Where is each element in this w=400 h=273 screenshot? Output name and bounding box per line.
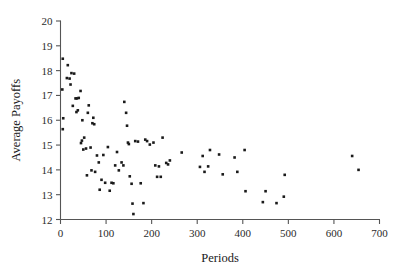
data-point: (266, 14.7) — [180, 151, 183, 154]
y-tick-label: 14 — [42, 164, 54, 176]
data-point: (216, 14.14) — [158, 165, 161, 168]
data-point: (116, 13.46) — [112, 182, 115, 185]
y-tick-label: 13 — [42, 189, 54, 201]
data-point: (60, 16.3) — [87, 112, 90, 115]
data-point: (316, 13.92) — [203, 171, 206, 174]
data-point: (84, 14.3) — [97, 161, 100, 164]
data-point: (450, 13.14) — [264, 190, 267, 193]
x-tick-label: 500 — [280, 227, 297, 239]
data-point: (74, 15.84) — [93, 123, 96, 126]
data-point: (150, 15.04) — [128, 143, 131, 146]
data-point: (94, 14.6) — [102, 154, 105, 157]
y-tick-label: 15 — [42, 139, 54, 151]
data-point: (52, 15.3) — [83, 136, 86, 139]
y-tick-label: 18 — [42, 65, 54, 77]
data-point: (98, 13.48) — [104, 181, 107, 184]
data-point: (50, 14.82) — [82, 148, 85, 151]
y-tick-label: 16 — [42, 114, 54, 126]
y-tick-label: 20 — [42, 15, 54, 27]
data-point: (474, 12.66) — [275, 202, 278, 205]
data-point: (356, 13.82) — [221, 173, 224, 176]
data-point: (40, 16.9) — [77, 97, 80, 100]
data-point: (406, 13.14) — [244, 190, 247, 193]
data-point: (86, 13.2) — [98, 188, 101, 191]
data-point: (58, 13.78) — [86, 174, 89, 177]
data-point: (328, 14.8) — [209, 149, 212, 152]
data-point: (240, 14.38) — [169, 159, 172, 162]
data-point: (164, 15.16) — [134, 140, 137, 143]
data-point: (5, 18.48) — [61, 57, 64, 60]
data-point: (56, 14.86) — [85, 147, 88, 150]
data-point: (158, 12.64) — [131, 202, 134, 205]
data-point: (196, 15.02) — [149, 143, 152, 146]
data-point: (224, 15.3) — [161, 136, 164, 139]
data-point: (152, 13.74) — [128, 175, 131, 178]
data-point: (146, 15.78) — [126, 124, 129, 127]
data-point: (140, 16.74) — [123, 101, 126, 104]
data-point: (35, 16.33) — [75, 111, 78, 114]
y-tick-label: 17 — [42, 89, 54, 101]
x-tick-label: 400 — [235, 227, 252, 239]
data-point: (204, 15.1) — [152, 141, 155, 144]
data-point: (27, 16.58) — [72, 105, 75, 108]
data-point: (72, 16.1) — [92, 116, 95, 119]
data-point: (160, 12.22) — [132, 213, 135, 216]
data-point: (404, 14.8) — [243, 149, 246, 152]
x-tick-label: 700 — [371, 227, 388, 239]
x-tick-label: 0 — [58, 227, 64, 239]
data-point: (306, 14.12) — [199, 166, 202, 169]
data-point: (104, 14.92) — [107, 146, 110, 149]
data-point: (208, 14.18) — [154, 164, 157, 167]
y-tick-label: 12 — [42, 214, 53, 226]
data-point: (144, 16.3) — [125, 112, 128, 115]
data-point: (6, 16.08) — [62, 117, 65, 120]
data-point: (134, 14.3) — [120, 161, 123, 164]
data-point: (14, 17.7) — [66, 77, 69, 80]
data-point: (24, 17.9) — [70, 72, 73, 75]
data-point: (382, 14.5) — [233, 156, 236, 159]
data-point: (176, 13.46) — [139, 182, 142, 185]
data-point: (80, 14.58) — [96, 154, 99, 157]
scatter-plot: 1213141516171819200100200300400500600700… — [0, 0, 400, 273]
x-axis-title: Periods — [201, 251, 239, 265]
data-point: (388, 13.92) — [236, 171, 239, 174]
data-point: (654, 14) — [357, 169, 360, 172]
data-point: (30, 17.88) — [73, 72, 76, 75]
data-points-group: (5, 18.48)(4, 17.24)(6, 16.08)(5, 15.64)… — [61, 57, 360, 215]
y-axis-title: Average Payoffs — [9, 79, 23, 162]
data-point: (66, 14.9) — [89, 146, 92, 149]
data-point: (212, 13.72) — [156, 176, 159, 179]
data-point: (16, 18.22) — [66, 64, 69, 67]
data-point: (68, 13.98) — [90, 169, 93, 172]
data-point: (492, 13.8) — [283, 174, 286, 177]
data-point: (236, 14.22) — [167, 163, 170, 166]
data-point: (44, 17.18) — [79, 90, 82, 93]
data-point: (170, 15.14) — [137, 140, 140, 143]
y-ticks-group: 121314151617181920 — [42, 15, 61, 226]
x-ticks-group: 0100200300400500600700 — [58, 220, 389, 239]
data-point: (128, 13.98) — [118, 169, 121, 172]
x-tick-label: 600 — [326, 227, 343, 239]
x-tick-label: 300 — [189, 227, 206, 239]
x-tick-label: 200 — [143, 227, 160, 239]
data-point: (490, 12.92) — [283, 195, 286, 198]
data-point: (324, 14.14) — [207, 165, 210, 168]
data-point: (190, 15.16) — [146, 140, 149, 143]
data-point: (312, 14.56) — [201, 155, 204, 158]
data-point: (62, 16.6) — [87, 104, 90, 107]
data-point: (124, 14.72) — [116, 151, 119, 154]
data-point: (48, 16) — [81, 119, 84, 122]
data-point: (76, 13.92) — [94, 171, 97, 174]
data-point: (640, 14.56) — [351, 155, 354, 158]
data-point: (348, 14.62) — [218, 153, 221, 156]
x-tick-label: 100 — [98, 227, 115, 239]
data-point: (47, 15.18) — [81, 139, 84, 142]
data-point: (182, 12.66) — [142, 202, 145, 205]
data-point: (156, 13.44) — [130, 182, 133, 185]
y-tick-label: 19 — [42, 40, 54, 52]
data-point: (138, 14.18) — [122, 164, 125, 167]
data-point: (20, 17.68) — [68, 77, 71, 80]
data-point: (22, 17.44) — [69, 83, 72, 86]
data-point: (5, 15.64) — [61, 128, 64, 131]
data-point: (444, 12.7) — [262, 201, 265, 204]
